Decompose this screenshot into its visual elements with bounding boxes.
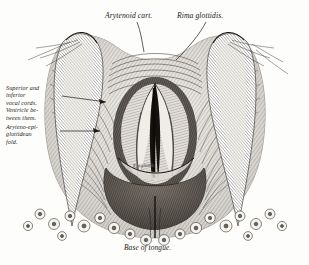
larynx-engraving xyxy=(0,0,309,265)
label-base-of-tongue: Base of tongue. xyxy=(124,243,171,252)
label-vocal-cords: Superior and inferior vocal cords. Ventr… xyxy=(6,85,39,122)
label-aryteno-epiglottidean-fold: Aryteno-epi- glottidean fold. xyxy=(6,124,38,146)
anatomical-plate: Arytenoid cart. Rima glottidis. Superior… xyxy=(0,0,309,265)
label-rima-glottidis: Rima glottidis. xyxy=(177,11,223,20)
label-epiglottis: Epiglottis. xyxy=(133,162,156,169)
label-arytenoid-cartilage: Arytenoid cart. xyxy=(105,11,152,20)
